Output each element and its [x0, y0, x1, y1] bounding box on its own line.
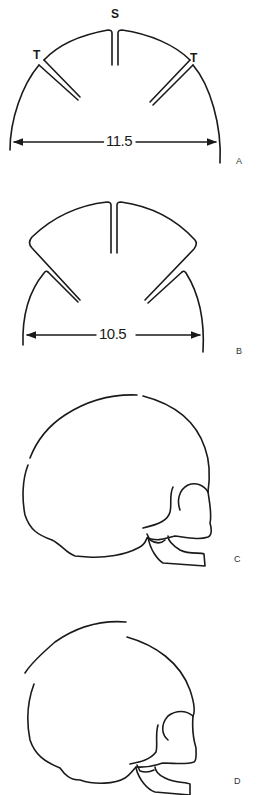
measurement-a: 11.5 [104, 133, 134, 148]
suture-label-temporal-right: T [190, 52, 197, 64]
panel-label-d: D [234, 777, 241, 786]
panel-label-a: A [236, 157, 242, 166]
panel-label-b: B [236, 347, 242, 356]
panel-b-top-left-plate [30, 202, 112, 300]
diagram-canvas [0, 0, 260, 795]
panel-d-skull [25, 622, 196, 795]
panel-label-c: C [234, 555, 241, 564]
panel-b-right-arc [182, 271, 203, 352]
panel-a-top-left-arc [44, 30, 112, 65]
panel-a-top-right-arc [118, 30, 190, 65]
panel-b-left-arc [23, 271, 48, 345]
suture-label-sagittal: S [111, 8, 119, 20]
measurement-b: 10.5 [97, 326, 128, 341]
panel-a-left-arc [10, 65, 39, 150]
suture-label-temporal-left: T [33, 49, 40, 61]
panel-a-right-arc [193, 65, 220, 163]
panel-c-skull [23, 395, 211, 566]
panel-b-top-right-plate [117, 202, 196, 300]
